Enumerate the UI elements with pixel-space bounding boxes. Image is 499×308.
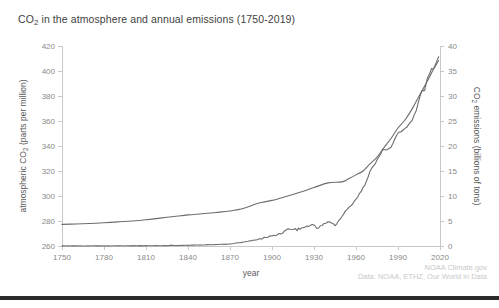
left-axis-title: atmospheric CO2 (parts per million) <box>18 79 29 212</box>
right-tick-label-30: 30 <box>448 92 457 101</box>
emissions-series-line <box>62 61 439 247</box>
x-tick-label-1990: 1990 <box>389 253 407 262</box>
credits-group: NOAA Climate.govData: NOAA, ETHZ, Our Wo… <box>358 263 488 281</box>
right-tick-label-20: 20 <box>448 142 457 151</box>
right-tick-label-40: 40 <box>448 42 457 51</box>
right-tick-label-35: 35 <box>448 67 457 76</box>
right-tick-label-15: 15 <box>448 167 457 176</box>
co2-chart: 2602803003203403603804004200510152025303… <box>0 0 499 295</box>
x-tick-label-1930: 1930 <box>305 253 323 262</box>
x-tick-label-2020: 2020 <box>431 253 449 262</box>
x-tick-label-1840: 1840 <box>179 253 197 262</box>
labels-group: 2602803003203403603804004200510152025303… <box>18 42 482 278</box>
credit-line-2: Data: NOAA, ETHZ, Our World in Data <box>358 272 488 281</box>
left-tick-label-340: 340 <box>42 142 56 151</box>
series-group <box>62 57 439 246</box>
chart-card: CO2 in the atmosphere and annual emissio… <box>0 0 499 295</box>
x-tick-label-1960: 1960 <box>347 253 365 262</box>
right-axis-title: CO2 emissions (billions of tons) <box>471 87 482 206</box>
x-tick-label-1780: 1780 <box>95 253 113 262</box>
left-tick-label-420: 420 <box>42 42 56 51</box>
x-tick-label-1810: 1810 <box>137 253 155 262</box>
screenshot-root: CO2 in the atmosphere and annual emissio… <box>0 0 499 308</box>
concentration-series-line <box>62 57 439 225</box>
left-tick-label-260: 260 <box>42 242 56 251</box>
right-tick-label-25: 25 <box>448 117 457 126</box>
left-tick-label-300: 300 <box>42 192 56 201</box>
x-tick-label-1750: 1750 <box>53 253 71 262</box>
bottom-spacer <box>0 300 499 308</box>
left-tick-label-360: 360 <box>42 117 56 126</box>
x-axis-title: year <box>243 268 260 278</box>
x-tick-label-1900: 1900 <box>263 253 281 262</box>
credit-line-1: NOAA Climate.gov <box>424 263 487 272</box>
right-tick-label-0: 0 <box>448 242 453 251</box>
x-tick-label-1870: 1870 <box>221 253 239 262</box>
left-tick-label-400: 400 <box>42 67 56 76</box>
left-tick-label-280: 280 <box>42 217 56 226</box>
axes-group <box>58 46 444 250</box>
right-tick-label-10: 10 <box>448 192 457 201</box>
left-tick-label-380: 380 <box>42 92 56 101</box>
right-tick-label-5: 5 <box>448 217 453 226</box>
left-tick-label-320: 320 <box>42 167 56 176</box>
